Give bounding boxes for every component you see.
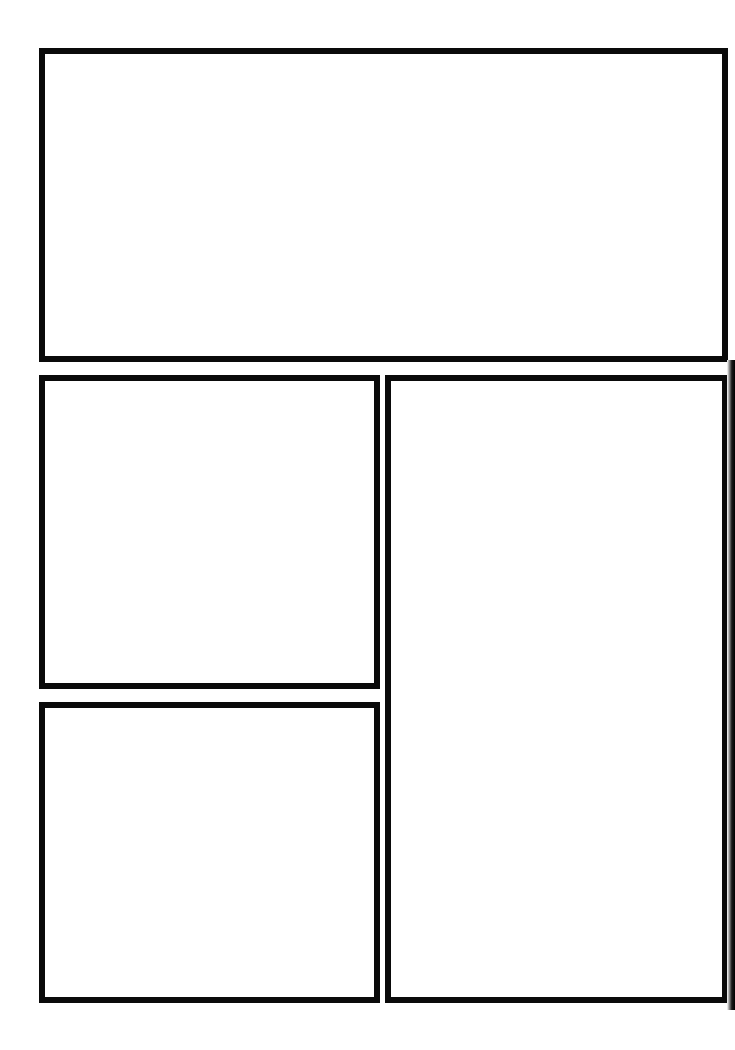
panel-bottom-left [39,702,380,1003]
panel-middle-left [39,375,380,689]
page-edge-shadow [727,360,735,1010]
panel-top-wide [39,48,728,362]
panel-right-tall [385,375,728,1003]
